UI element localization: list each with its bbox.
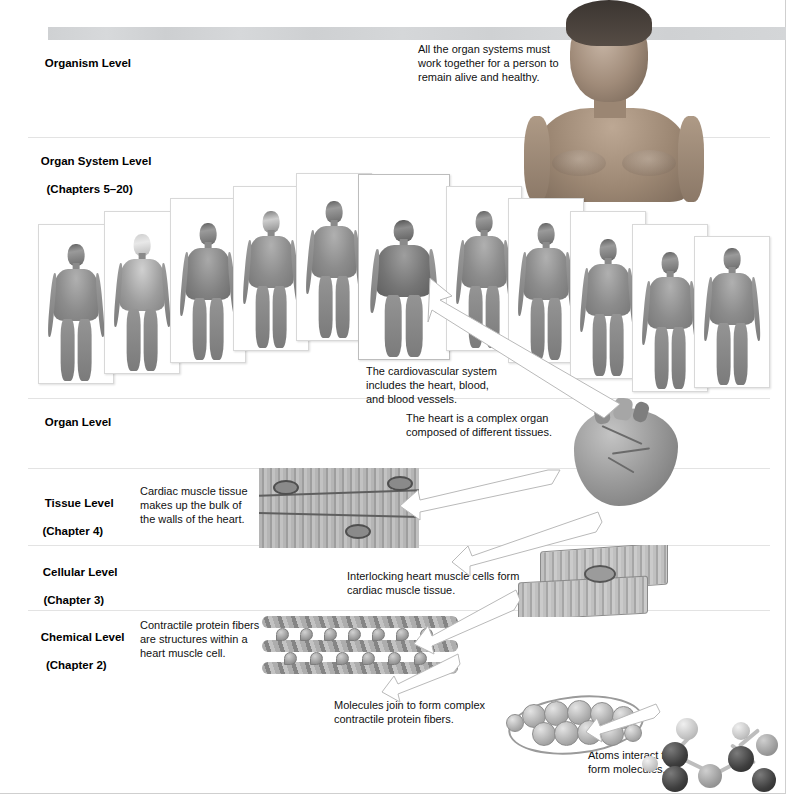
organ-system-tab-label[interactable]: Skeletal [104, 211, 155, 212]
organ-system-panel-cardiovascular[interactable]: Cardiovascular [358, 174, 450, 360]
level-label-organ: Organ Level [32, 401, 111, 443]
level-label-organ-text: Organ Level [45, 416, 111, 428]
atoms-illustration [640, 716, 786, 794]
body-figure-icon [705, 248, 760, 385]
level-label-tissue-chapters: (Chapter 4) [32, 524, 114, 538]
level-label-organism-text: Organism Level [45, 57, 131, 69]
cardiac-tissue-illustration [259, 468, 419, 548]
figure-canvas: Organism Level Organ System Level (Chapt… [0, 0, 786, 794]
organ-system-tab-label[interactable]: Cardiovascular [358, 174, 450, 175]
muscle-cells-illustration [518, 545, 686, 617]
level-label-tissue-text: Tissue Level [45, 497, 114, 509]
body-figure-icon [244, 211, 299, 348]
body-figure-icon [581, 239, 636, 376]
protein-fibers-illustration [262, 610, 458, 678]
organ-system-tab-label[interactable]: Integumentary [38, 224, 114, 225]
organ-system-tab-label[interactable]: Reproductive [694, 236, 770, 237]
body-figure-icon [519, 223, 574, 360]
molecule-illustration [498, 688, 648, 760]
organ-system-tab-label[interactable]: Nervous [233, 186, 286, 187]
level-label-chemical: Chemical Level (Chapter 2) [28, 616, 125, 700]
body-figure-icon [643, 252, 698, 389]
organ-system-tab-label[interactable]: Lymphatic [446, 186, 507, 187]
body-figure-icon [457, 211, 512, 348]
level-label-cellular-text: Cellular Level [43, 566, 118, 578]
body-figure-icon [307, 201, 362, 338]
heart-illustration [560, 398, 688, 510]
organ-system-panel-skeletal[interactable]: Skeletal [104, 211, 180, 374]
organ-system-tab-label[interactable]: Endocrine [296, 173, 357, 174]
body-figure-icon [115, 234, 170, 371]
organ-system-panel-integumentary[interactable]: Integumentary [38, 224, 114, 384]
organ-system-tab-label[interactable]: Respiratory [508, 198, 576, 199]
level-label-organ-system-chapters: (Chapters 5–20) [28, 182, 151, 196]
body-figure-icon [181, 223, 236, 360]
level-label-cellular-chapters: (Chapter 3) [30, 593, 118, 607]
organ-system-tab-label[interactable]: Digestive [570, 211, 627, 212]
body-figure-icon [371, 220, 438, 357]
level-label-chemical-text: Chemical Level [41, 631, 125, 643]
organ-system-panel-reproductive[interactable]: Reproductive [694, 236, 770, 388]
organism-figure [524, 0, 704, 200]
level-label-organism: Organism Level [32, 42, 131, 84]
body-figure-icon [49, 244, 104, 381]
organ-system-tab-label[interactable]: Muscular [170, 198, 227, 199]
note-cardiovascular: The cardiovascular system includes the h… [366, 364, 566, 406]
arrow-heart-to-tissue [400, 470, 560, 520]
level-label-chemical-chapters: (Chapter 2) [28, 658, 125, 672]
organ-system-tab-label[interactable]: Urinary [632, 224, 680, 225]
level-label-organ-system-text: Organ System Level [41, 155, 152, 167]
